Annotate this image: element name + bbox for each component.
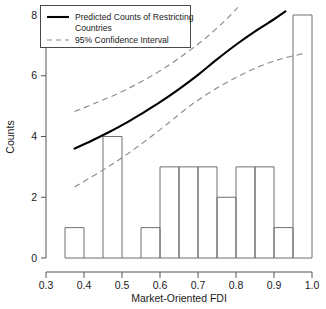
y-axis-title: Counts [4,120,16,153]
histogram-bar [65,228,84,258]
histogram-bar [274,228,293,258]
histogram-bar [198,167,217,258]
histogram-bar [160,167,179,258]
histogram-bar [293,15,312,258]
histogram-bar [141,228,160,258]
legend-label-ci: 95% Confidence Interval [75,35,169,45]
y-tick-label: 8 [31,9,37,21]
legend-label-predicted-line2: Countries [75,23,112,33]
x-tick-label: 0.6 [153,279,168,291]
x-tick-label: 1.0 [305,279,320,291]
x-tick-label: 0.9 [267,279,282,291]
y-tick-label: 0 [31,252,37,264]
x-tick-label: 0.8 [229,279,244,291]
legend-label-predicted-line1: Predicted Counts of Restricting [75,12,194,22]
x-axis: 0.30.40.50.60.70.80.91.0 Market-Oriented… [39,272,320,304]
x-axis-title: Market-Oriented FDI [131,292,227,304]
chart-container: 02468 Counts 0.30.40.50.60.70.80.91.0 Ma… [0,0,326,309]
x-tick-group: 0.30.40.50.60.70.80.91.0 [39,272,320,291]
legend: Predicted Counts of Restricting Countrie… [41,6,194,48]
y-axis: 02468 Counts [4,9,46,264]
histogram-bar [179,167,198,258]
x-tick-label: 0.7 [191,279,206,291]
y-tick-label: 6 [31,69,37,81]
x-tick-label: 0.3 [39,279,54,291]
histogram-bar [236,167,255,258]
x-tick-label: 0.4 [77,279,92,291]
histogram-bar [103,137,122,259]
histogram-with-fit-svg: 02468 Counts 0.30.40.50.60.70.80.91.0 Ma… [0,0,326,309]
y-tick-label: 2 [31,191,37,203]
y-tick-label: 4 [31,130,37,142]
x-tick-label: 0.5 [115,279,130,291]
histogram-bar [255,167,274,258]
histogram-bar [217,197,236,258]
